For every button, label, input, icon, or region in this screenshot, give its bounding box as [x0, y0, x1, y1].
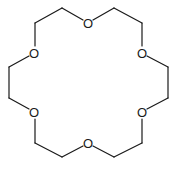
oxygen-atom: O: [29, 105, 39, 120]
bond: [9, 56, 29, 67]
oxygen-atom: O: [137, 46, 147, 61]
bond: [147, 98, 168, 109]
bond: [93, 8, 114, 20]
bond: [114, 8, 142, 23]
bond: [35, 143, 62, 157]
oxygen-atom: O: [83, 16, 93, 31]
bond: [93, 146, 114, 157]
bond: [62, 8, 83, 20]
bond: [62, 146, 83, 157]
oxygen-atom: O: [29, 46, 39, 61]
bond: [147, 56, 168, 67]
structure-svg: O O O O O O: [0, 0, 179, 170]
oxygen-atom: O: [83, 136, 93, 151]
bond: [9, 98, 29, 109]
atoms: O O O O O O: [29, 16, 147, 151]
bond: [114, 143, 142, 157]
bond: [35, 8, 62, 23]
crown-ether-diagram: O O O O O O: [0, 0, 179, 170]
oxygen-atom: O: [137, 105, 147, 120]
